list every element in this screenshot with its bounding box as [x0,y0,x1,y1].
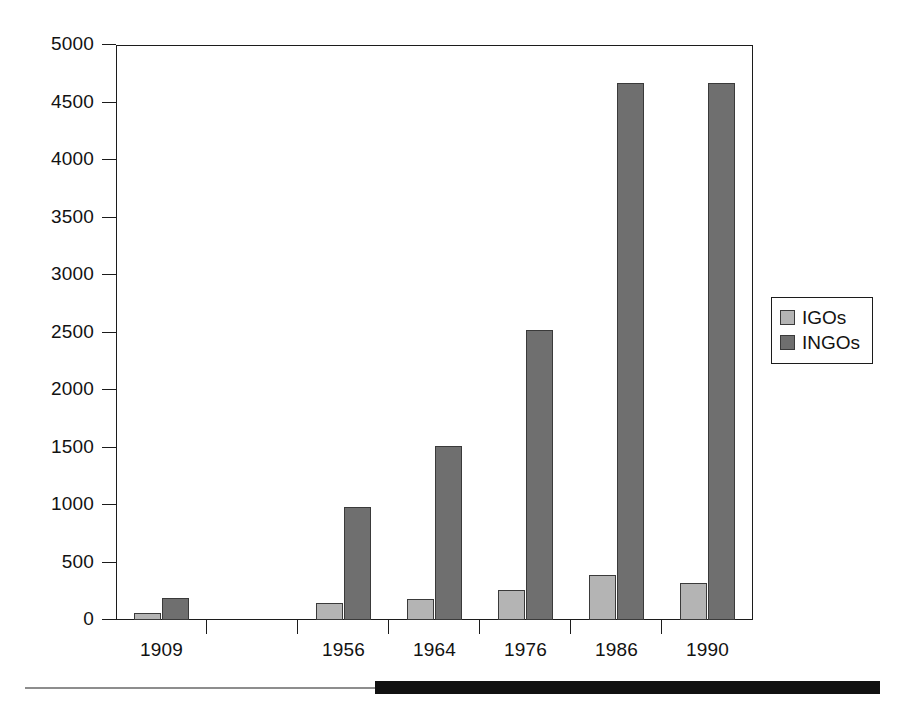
x-axis-tick [661,620,662,634]
x-axis-tick-label: 1990 [648,639,768,661]
legend-item-igos[interactable]: IGOs [780,305,860,330]
y-axis-tick [102,619,116,620]
bars-layer [116,45,753,620]
y-axis-tick [102,562,116,563]
chart-legend: IGOsINGOs [771,297,873,364]
y-axis-tick-label-text: 500 [32,552,94,571]
y-axis-tick-label: 2500 [28,322,94,342]
y-axis-tick [102,332,116,333]
y-axis-tick [102,504,116,505]
x-axis-tick [388,620,389,634]
legend-swatch-icon [780,310,795,325]
bar-igos-1990 [680,583,707,620]
y-axis-tick [102,447,116,448]
y-axis-tick-label: 500 [28,552,94,572]
y-axis-tick-label-text: 2500 [32,322,94,341]
y-axis-tick-label: 3000 [28,264,94,284]
y-axis-tick-label: 1000 [28,494,94,514]
x-axis-tick [297,620,298,634]
y-axis-tick-label: 3500 [28,207,94,227]
x-axis-tick-label: 1909 [102,639,222,661]
bar-igos-1976 [498,590,525,620]
bar-ingos-1909 [162,598,189,620]
bar-chart-figure: 0500100015002000250030003500400045005000… [0,0,905,706]
y-axis-tick-label-text: 4500 [32,92,94,111]
footer-rule-thick [375,681,880,694]
bar-igos-1964 [407,599,434,620]
y-axis-tick-label-text: 2000 [32,379,94,398]
x-axis-tick [206,620,207,634]
y-axis-tick-label-text: 0 [32,609,94,628]
x-axis-tick [479,620,480,634]
y-axis-tick [102,389,116,390]
bar-igos-1956 [316,603,343,620]
y-axis-tick [102,44,116,45]
bar-ingos-1990 [708,83,735,620]
bar-igos-1909 [134,613,161,620]
y-axis-tick [102,102,116,103]
y-axis-tick-label: 1500 [28,437,94,457]
y-axis-tick-label: 0 [28,609,94,629]
bar-ingos-1956 [344,507,371,620]
footer-rule-thin [25,687,377,689]
y-axis-tick-label-text: 3000 [32,264,94,283]
bar-igos-1986 [589,575,616,620]
y-axis-tick [102,159,116,160]
y-axis-tick-label-text: 5000 [32,34,94,53]
legend-item-label: INGOs [802,333,860,353]
y-axis-tick-label: 4500 [28,92,94,112]
legend-swatch-icon [780,335,795,350]
x-axis-tick [570,620,571,634]
y-axis-tick-label: 2000 [28,379,94,399]
y-axis-tick [102,274,116,275]
legend-item-ingos[interactable]: INGOs [780,330,860,355]
y-axis-tick-label-text: 1000 [32,494,94,513]
y-axis-tick-label-text: 4000 [32,149,94,168]
y-axis-tick [102,217,116,218]
bar-ingos-1976 [526,330,553,620]
y-axis-tick-label-text: 3500 [32,207,94,226]
bar-ingos-1986 [617,83,644,620]
bar-ingos-1964 [435,446,462,620]
y-axis-tick-label: 4000 [28,149,94,169]
y-axis-tick-label: 5000 [28,34,94,54]
legend-item-label: IGOs [802,308,846,328]
y-axis-tick-label-text: 1500 [32,437,94,456]
